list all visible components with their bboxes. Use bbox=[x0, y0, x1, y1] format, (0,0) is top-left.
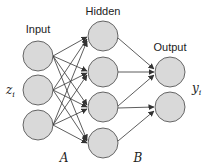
output-variable: yi bbox=[191, 81, 202, 97]
weights-B-label: B bbox=[133, 151, 143, 165]
input-label: Input bbox=[26, 23, 50, 35]
hidden-node bbox=[88, 21, 118, 51]
hidden-node bbox=[88, 92, 118, 122]
output-layer bbox=[155, 57, 185, 122]
weights-A-label: A bbox=[59, 151, 69, 165]
input-layer bbox=[23, 41, 53, 140]
edges-A bbox=[53, 37, 87, 143]
hidden-layer bbox=[88, 21, 118, 158]
neural-network-diagram: Input Hidden Output zi yi A B bbox=[0, 0, 210, 167]
hidden-label: Hidden bbox=[86, 5, 121, 17]
hidden-node bbox=[88, 57, 118, 87]
input-node bbox=[23, 110, 53, 140]
input-node bbox=[23, 41, 53, 71]
output-node bbox=[155, 57, 185, 87]
edges-B bbox=[118, 38, 154, 141]
input-variable: zi bbox=[5, 83, 15, 99]
hidden-node bbox=[88, 128, 118, 158]
output-label: Output bbox=[153, 41, 186, 53]
input-node bbox=[23, 75, 53, 105]
output-node bbox=[155, 92, 185, 122]
